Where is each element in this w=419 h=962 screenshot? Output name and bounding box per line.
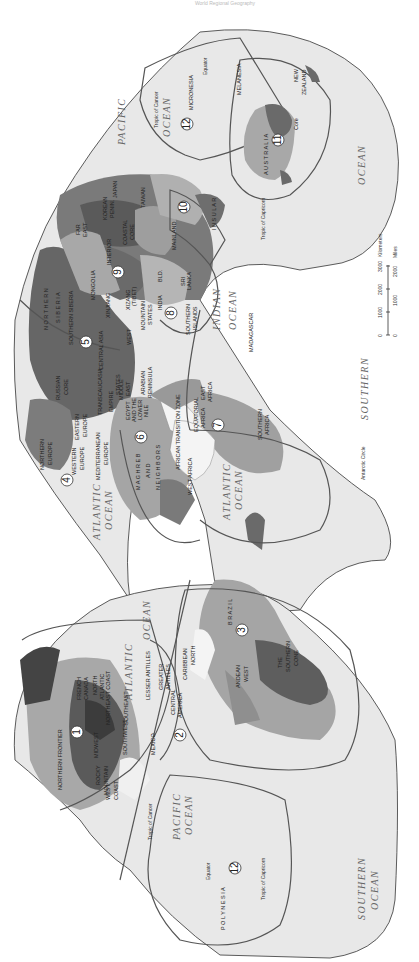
svg-text:A N D: A N D [145,464,151,478]
svg-text:Antarctic Circle: Antarctic Circle [360,446,366,480]
svg-text:SOUTHWEST: SOUTHWEST [122,719,128,755]
svg-text:SOUTHERN: SOUTHERN [257,409,263,440]
svg-text:8: 8 [165,310,176,316]
svg-text:MONGOLIA: MONGOLIA [90,270,96,300]
realm-marker-12-east: 12 [181,118,193,130]
svg-text:WEST AFRICA: WEST AFRICA [187,457,193,495]
svg-text:NORTH: NORTH [190,646,196,665]
svg-text:EAST: EAST [125,381,131,396]
svg-text:11: 11 [272,134,283,145]
svg-text:MIDWEST: MIDWEST [93,731,99,758]
svg-text:MIDDLE: MIDDLE [118,379,124,400]
svg-text:MADAGASCAR: MADAGASCAR [248,313,254,352]
svg-text:2: 2 [174,732,185,738]
svg-text:PENIN.: PENIN. [109,199,115,218]
svg-text:BLD.: BLD. [157,269,163,282]
ocean-label-southern-west: OCEAN [369,870,380,910]
svg-text:WEST: WEST [105,783,111,800]
svg-text:NORTHEAST COAST: NORTHEAST COAST [105,670,111,725]
svg-text:3000: 3000 [377,261,383,272]
svg-text:N O R T H E R N: N O R T H E R N [43,288,49,330]
svg-text:ISLANDS: ISLANDS [192,306,198,330]
svg-text:WEST: WEST [243,665,249,682]
svg-text:Tropic of Capricorn: Tropic of Capricorn [260,197,266,240]
svg-text:1000: 1000 [392,295,398,306]
svg-text:COASTAL: COASTAL [122,220,128,245]
svg-text:Tropic of Capricorn: Tropic of Capricorn [260,857,266,900]
svg-text:10: 10 [178,201,189,213]
svg-text:1: 1 [71,729,82,735]
svg-text:LANKA: LANKA [186,272,192,290]
svg-text:MEDITERRANEAN: MEDITERRANEAN [95,432,101,480]
world-regions-map: PACIFIC OCEAN OCEAN INDIAN OCEAN SOUTHER… [0,0,419,962]
svg-text:KOREAN: KOREAN [102,197,108,220]
svg-text:AFRICA: AFRICA [200,408,206,429]
ocean-label-atlantic-west: OCEAN [141,600,152,640]
ocean-label-southern-east: OCEAN [356,145,367,185]
svg-text:EASTERN: EASTERN [74,414,80,440]
svg-text:EUROPE: EUROPE [47,441,53,465]
svg-text:WESTERN: WESTERN [71,447,77,475]
svg-text:P O L Y N E S I A: P O L Y N E S I A [220,887,226,930]
svg-text:NORTHERN: NORTHERN [39,439,45,470]
svg-text:CARIBBEAN: CARIBBEAN [182,648,188,680]
svg-text:LESSER ANTILLES: LESSER ANTILLES [145,651,151,700]
atlantic-label-north: ATLANTIC [91,483,102,541]
svg-text:Equator: Equator [202,57,208,75]
svg-text:3: 3 [236,627,247,633]
svg-text:RUSSIAN: RUSSIAN [55,376,61,400]
svg-text:B R A Z I L: B R A Z I L [227,599,233,625]
svg-text:AFRICA: AFRICA [207,382,213,403]
svg-text:NEW: NEW [293,68,299,82]
svg-text:Tropic of Cancer: Tropic of Cancer [147,803,153,840]
realm-marker-11: 11 [272,134,284,146]
svg-text:I N S U L A R: I N S U L A R [211,198,217,230]
svg-text:EQUATORIAL: EQUATORIAL [193,397,199,432]
svg-text:AFRICA: AFRICA [264,415,270,436]
svg-text:ROCKY: ROCKY [95,765,101,785]
svg-text:MELANESIA: MELANESIA [236,63,242,95]
svg-text:EUROPE: EUROPE [79,446,85,470]
svg-text:MEXICO: MEXICO [150,733,156,755]
svg-text:0: 0 [377,334,383,337]
svg-text:SOUTHERN: SOUTHERN [185,304,191,335]
svg-text:2000: 2000 [392,266,398,277]
svg-text:SOUTHERN SIBERIA: SOUTHERN SIBERIA [68,291,74,345]
indian-label: INDIAN [211,288,222,331]
svg-text:1000: 1000 [377,307,383,318]
svg-text:EUROPE: EUROPE [103,441,109,465]
svg-text:Tropic of Cancer: Tropic of Cancer [153,91,159,128]
svg-text:AFRICAN TRANSITION ZONE: AFRICAN TRANSITION ZONE [175,394,181,470]
svg-text:ANTILLES: ANTILLES [165,664,171,690]
svg-text:2000: 2000 [377,284,383,295]
svg-text:GREATER: GREATER [158,664,164,690]
realm-marker-1: 1 [71,726,83,738]
svg-text:12: 12 [181,118,192,130]
svg-text:MOUNTAIN: MOUNTAIN [140,301,146,330]
realm-marker-4: 4 [61,474,73,486]
atlantic-label-south: ATLANTIC [221,463,232,521]
svg-text:EUROPE: EUROPE [82,413,88,437]
svg-text:9: 9 [112,269,123,275]
southern-label-east: SOUTHERN [359,357,370,420]
svg-text:FRENCH: FRENCH [76,677,82,700]
realm-marker-6: 6 [135,431,147,443]
svg-text:A U S T R A L I A: A U S T R A L I A [263,133,269,175]
svg-text:MICRONESIA: MICRONESIA [188,75,194,110]
ocean-label-atlantic-north: OCEAN [103,490,114,530]
svg-text:FAR: FAR [75,224,81,235]
svg-text:CORE: CORE [63,379,69,395]
svg-text:S I B E R I A: S I B E R I A [55,292,61,323]
southern-label-west: SOUTHERN [356,857,367,920]
svg-text:M A G H R E B: M A G H R E B [135,453,141,490]
svg-text:STATES: STATES [147,304,153,325]
realm-marker-5: 5 [80,336,92,348]
svg-text:Equator: Equator [205,862,211,880]
svg-text:0: 0 [392,334,398,337]
svg-text:CORE: CORE [129,224,135,240]
svg-text:NORTH: NORTH [92,676,98,695]
svg-text:TRANSCAUCASIA: TRANSCAUCASIA [97,368,103,415]
svg-text:WEST: WEST [126,328,132,345]
svg-text:6: 6 [135,434,146,440]
pacific-label-west: PACIFIC [171,792,182,841]
